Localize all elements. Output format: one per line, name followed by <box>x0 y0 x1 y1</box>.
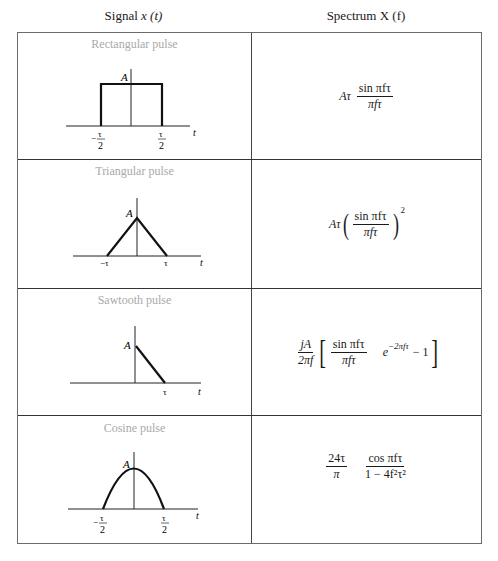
exp-power: −2πfτ <box>388 341 409 351</box>
svg-text:τ: τ <box>162 513 166 523</box>
signal-header-var: x (t) <box>141 8 162 23</box>
spectrum-numerator: sin πfτ <box>331 338 367 353</box>
spectrum-exponent: 2 <box>401 205 406 215</box>
spectrum-triangular: Aτ ( sin πfτ πfτ ) 2 <box>252 160 482 288</box>
spectrum-prefix-fraction: 24τ π <box>326 452 347 481</box>
left-bracket: [ <box>320 335 327 369</box>
svg-text:−: − <box>91 133 96 143</box>
spectrum-sawtooth: jA 2πf [ sin πfτ πfτ e −2πfτ − 1 ] <box>252 289 482 415</box>
spectrum-denominator: πfτ <box>362 225 380 239</box>
spectrum-fraction: sin πfτ πfτ <box>353 210 389 239</box>
svg-text:A: A <box>122 458 130 470</box>
svg-text:τ: τ <box>163 387 167 397</box>
svg-text:t: t <box>196 510 199 521</box>
svg-text:−: − <box>93 517 98 527</box>
prefix-numerator: 24τ <box>326 452 347 467</box>
svg-text:−τ: −τ <box>100 258 109 268</box>
spectrum-column-header: Spectrum X (f) <box>250 8 482 24</box>
prefix-denominator: π <box>332 467 342 481</box>
signal-header-label: Signal <box>105 8 138 23</box>
svg-text:τ: τ <box>164 258 168 268</box>
rectangular-pulse-plot: A t − τ 2 τ 2 <box>18 33 251 159</box>
svg-text:t: t <box>193 127 196 138</box>
spectrum-prefix-fraction: jA 2πf <box>296 338 315 367</box>
spectrum-fraction: sin πfτ πfτ <box>357 82 393 111</box>
svg-text:t: t <box>200 257 203 268</box>
fourier-pairs-table: Rectangular pulse A t − τ 2 τ 2 Aτ sin π… <box>17 32 482 544</box>
right-bracket: ] <box>431 335 438 369</box>
sawtooth-pulse-plot: A τ t <box>18 289 251 415</box>
svg-text:2: 2 <box>100 524 105 535</box>
svg-text:t: t <box>198 386 201 397</box>
spectrum-denominator: 1 − 4f²τ² <box>363 467 408 481</box>
signal-column-header: Signal x (t) <box>17 8 250 24</box>
spectrum-rectangular: Aτ sin πfτ πfτ <box>252 33 482 159</box>
prefix-numerator: jA <box>298 338 313 353</box>
spectrum-numerator: cos πfτ <box>366 452 404 467</box>
spectrum-tail: − 1 <box>413 345 429 360</box>
svg-text:τ: τ <box>100 513 104 523</box>
svg-text:τ: τ <box>98 129 102 139</box>
left-paren: ( <box>343 209 349 239</box>
spectrum-fraction: sin πfτ πfτ <box>331 338 367 367</box>
spectrum-denominator: πfτ <box>340 353 358 367</box>
svg-text:2: 2 <box>162 524 167 535</box>
svg-text:A: A <box>125 207 133 219</box>
cosine-pulse-plot: A t − τ 2 τ 2 <box>18 416 251 544</box>
svg-text:2: 2 <box>159 140 164 151</box>
spectrum-numerator: sin πfτ <box>353 210 389 225</box>
spectrum-fraction: cos πfτ 1 − 4f²τ² <box>363 452 408 481</box>
spectrum-prefix: Aτ <box>329 217 341 232</box>
prefix-denominator: 2πf <box>296 353 315 367</box>
spectrum-cosine: 24τ π cos πfτ 1 − 4f²τ² <box>252 416 482 516</box>
svg-text:2: 2 <box>98 140 103 151</box>
svg-text:A: A <box>123 339 131 351</box>
svg-text:τ: τ <box>159 129 163 139</box>
spectrum-numerator: sin πfτ <box>357 82 393 97</box>
triangular-pulse-plot: A −τ τ t <box>18 160 251 288</box>
right-paren: ) <box>393 209 399 239</box>
spectrum-prefix: Aτ <box>339 89 351 104</box>
spectrum-denominator: πfτ <box>366 97 384 111</box>
amplitude-label: A <box>120 71 128 83</box>
